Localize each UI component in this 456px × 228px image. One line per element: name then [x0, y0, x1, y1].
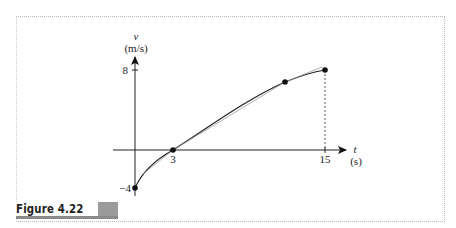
caption-underline	[16, 216, 118, 219]
x-axis-label: t	[353, 143, 357, 155]
point-15-8	[322, 67, 328, 73]
y-axis-label: v	[134, 30, 139, 42]
y-axis-unit: (m/s)	[124, 42, 148, 55]
point-3-0	[170, 147, 176, 153]
figure-caption: Figure 4.22	[16, 200, 120, 218]
velocity-curve	[135, 70, 325, 188]
figure-caption-text: Figure 4.22	[16, 202, 87, 216]
y-tick-label-8: 8	[123, 64, 129, 76]
x-tick-label-3: 3	[170, 153, 176, 165]
point-12-6.8	[282, 79, 288, 85]
caption-accent-block	[98, 202, 118, 216]
point-0--4	[132, 185, 138, 191]
x-tick-label-15: 15	[320, 153, 332, 165]
x-axis-unit: (s)	[350, 155, 362, 168]
velocity-time-graph: v (m/s) 8 −4 3 15 t (s)	[0, 0, 456, 228]
y-tick-label-neg4: −4	[119, 182, 131, 194]
